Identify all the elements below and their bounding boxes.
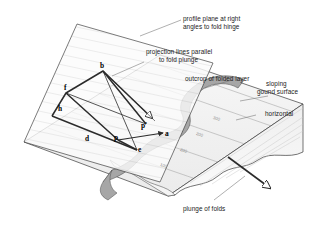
point-label-p: p bbox=[114, 133, 118, 142]
point-label-a: a bbox=[165, 129, 169, 138]
point-label-f: f bbox=[64, 83, 66, 92]
point-label-p-prime: p' bbox=[141, 121, 147, 130]
annotation-profile-plane-line2: angles to fold hinge bbox=[183, 23, 239, 31]
point-label-d: d bbox=[85, 134, 89, 143]
leader-profile-plane bbox=[140, 20, 181, 36]
point-label-b: b bbox=[100, 61, 104, 70]
figure-canvas: profile plane at right angles to fold hi… bbox=[0, 0, 317, 231]
annotation-plunge-of-folds: plunge of folds bbox=[183, 205, 225, 213]
point-label-e: e bbox=[138, 145, 141, 154]
point-label-h: h bbox=[58, 104, 62, 113]
annotation-horizontal: horizontal bbox=[265, 110, 293, 118]
annotation-projection-lines-line2: to fold plunge bbox=[159, 56, 198, 64]
annotation-outcrop-of-folded-layer: outcrop of folded layer bbox=[185, 75, 249, 83]
annotation-sloping-ground-line1: sloping bbox=[266, 80, 287, 88]
annotation-projection-lines-line1: projection lines parallel bbox=[146, 48, 212, 56]
annotation-profile-plane-line1: profile plane at right bbox=[183, 15, 240, 23]
annotation-sloping-ground-line2: gound surface bbox=[257, 88, 298, 96]
